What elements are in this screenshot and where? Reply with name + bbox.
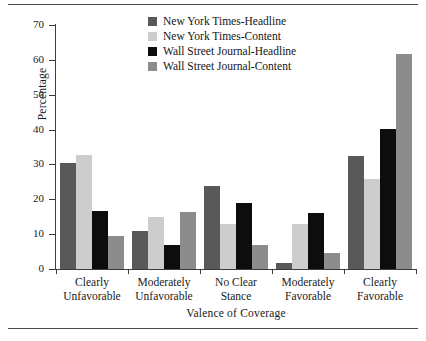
legend-swatch-icon (148, 17, 157, 26)
chart-figure: 010203040506070 Percentage Valence of Co… (0, 0, 426, 341)
bar[interactable] (76, 155, 92, 269)
bar[interactable] (108, 236, 124, 269)
x-axis-category-label: ClearlyUnfavorable (56, 276, 128, 303)
x-axis-tick (272, 269, 273, 274)
y-axis-tick: 50 (49, 95, 55, 96)
legend-item-label: Wall Street Journal-Content (163, 60, 291, 73)
bar[interactable] (60, 163, 76, 269)
category-label-line: Clearly (344, 276, 416, 290)
category-label-line: Stance (200, 290, 272, 304)
y-axis-tick: 10 (49, 234, 55, 235)
y-axis-tick: 0 (49, 269, 55, 270)
category-label-line: No Clear (200, 276, 272, 290)
bar[interactable] (204, 186, 220, 269)
legend-item[interactable]: New York Times-Headline (148, 14, 296, 28)
category-label-line: Unfavorable (128, 290, 200, 304)
x-axis-category-label: ModeratelyUnfavorable (128, 276, 200, 303)
x-axis-tick (200, 269, 201, 274)
category-label-line: Unfavorable (56, 290, 128, 304)
bar[interactable] (380, 129, 396, 269)
y-axis-tick: 20 (49, 199, 55, 200)
bar[interactable] (324, 253, 340, 269)
bar[interactable] (348, 156, 364, 269)
y-axis-tick: 40 (49, 130, 55, 131)
category-label-line: Favorable (344, 290, 416, 304)
x-axis-tick (416, 269, 417, 274)
bar[interactable] (308, 213, 324, 269)
bar[interactable] (364, 179, 380, 269)
legend-item[interactable]: Wall Street Journal-Content (148, 59, 296, 73)
bar-group (56, 25, 128, 269)
y-axis-tick-label: 70 (33, 17, 49, 31)
bar[interactable] (164, 245, 180, 269)
x-axis-category-label: ModeratelyFavorable (272, 276, 344, 303)
bar[interactable] (236, 203, 252, 269)
legend-item[interactable]: New York Times-Content (148, 29, 296, 43)
bar[interactable] (180, 212, 196, 269)
legend-swatch-icon (148, 47, 157, 56)
bar[interactable] (276, 263, 292, 269)
legend-item-label: New York Times-Headline (163, 15, 286, 28)
x-axis-category-label: ClearlyFavorable (344, 276, 416, 303)
category-label-line: Clearly (56, 276, 128, 290)
bottom-divider-rule (8, 328, 418, 329)
x-axis-tick (344, 269, 345, 274)
x-axis-title: Valence of Coverage (56, 307, 416, 319)
x-axis-category-label: No ClearStance (200, 276, 272, 303)
legend-item-label: New York Times-Content (163, 30, 281, 43)
x-axis-tick (128, 269, 129, 274)
legend-item[interactable]: Wall Street Journal-Headline (148, 44, 296, 58)
bar[interactable] (148, 217, 164, 269)
bar[interactable] (220, 224, 236, 269)
y-axis-tick-label: 30 (33, 156, 49, 170)
y-axis-title: Percentage (36, 34, 48, 154)
legend-swatch-icon (148, 32, 157, 41)
y-axis-tick-label: 0 (39, 261, 50, 275)
y-axis-tick: 60 (49, 60, 55, 61)
legend-item-label: Wall Street Journal-Headline (163, 45, 296, 58)
bar[interactable] (132, 231, 148, 269)
category-label-line: Moderately (272, 276, 344, 290)
category-label-line: Moderately (128, 276, 200, 290)
x-axis-line (55, 269, 417, 270)
bar[interactable] (92, 211, 108, 269)
y-axis-tick: 70 (49, 25, 55, 26)
top-divider-rule (8, 4, 418, 5)
y-axis-tick-label: 10 (33, 226, 49, 240)
bar[interactable] (292, 224, 308, 269)
bar-group (344, 25, 416, 269)
y-axis-tick: 30 (49, 164, 55, 165)
x-axis-tick (56, 269, 57, 274)
bar[interactable] (252, 245, 268, 269)
chart-legend: New York Times-HeadlineNew York Times-Co… (148, 14, 296, 74)
y-axis-tick-label: 20 (33, 191, 49, 205)
bar[interactable] (396, 54, 412, 269)
legend-swatch-icon (148, 62, 157, 71)
category-label-line: Favorable (272, 290, 344, 304)
